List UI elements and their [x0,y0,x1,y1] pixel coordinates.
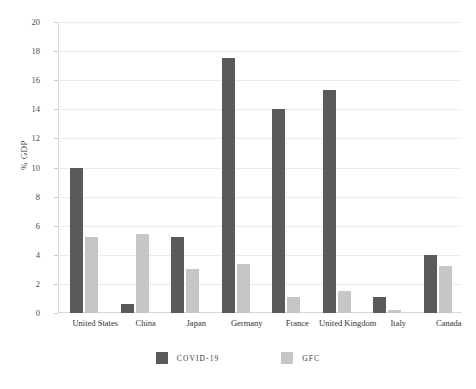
y-tick-label: 18 [0,47,40,56]
y-tick-label: 4 [0,251,40,260]
bar-gfc[interactable] [439,266,452,313]
y-tick-label: 0 [0,309,40,318]
legend-swatch-icon [281,352,293,364]
bar-group [109,22,160,313]
y-tick-label: 20 [0,18,40,27]
bar-gfc[interactable] [186,269,199,313]
bar-group [260,22,311,313]
legend-item[interactable]: GFC [281,352,320,364]
bar-covid-19[interactable] [424,255,437,313]
bar-covid-19[interactable] [171,237,184,313]
y-tick-label: 12 [0,134,40,143]
y-tick-label: 8 [0,193,40,202]
legend-label: GFC [302,354,320,363]
y-tick-label: 2 [0,280,40,289]
bar-covid-19[interactable] [121,304,134,313]
bar-group [159,22,210,313]
y-tick-label: 10 [0,164,40,173]
legend-item[interactable]: COVID-19 [156,352,220,364]
bar-covid-19[interactable] [222,58,235,313]
bar-covid-19[interactable] [323,90,336,313]
bar-covid-19[interactable] [70,168,83,314]
bar-gfc[interactable] [338,291,351,313]
plot-area: 02468101214161820United StatesChinaJapan… [58,22,462,313]
bar-group [311,22,362,313]
y-tick-mark [54,313,58,314]
chart-legend: COVID-19GFC [0,352,476,364]
y-tick-label: 14 [0,105,40,114]
bar-group [58,22,109,313]
bar-group [361,22,412,313]
bar-gfc[interactable] [237,264,250,313]
y-axis-title: % GDP [19,120,29,190]
bar-covid-19[interactable] [272,109,285,313]
y-tick-label: 6 [0,222,40,231]
bar-group [210,22,261,313]
legend-label: COVID-19 [177,354,220,363]
y-tick-label: 16 [0,76,40,85]
bar-covid-19[interactable] [373,297,386,313]
bar-gfc[interactable] [136,234,149,313]
bar-gfc[interactable] [388,310,401,313]
bar-chart: % GDP 02468101214161820United StatesChin… [0,0,476,389]
legend-swatch-icon [156,352,168,364]
x-axis-label: Canada [406,318,476,329]
bar-gfc[interactable] [85,237,98,313]
bar-group [412,22,463,313]
bar-gfc[interactable] [287,297,300,313]
